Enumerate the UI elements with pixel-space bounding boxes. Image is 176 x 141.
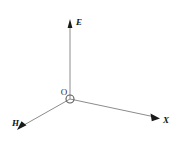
origin-label: O [61, 87, 68, 97]
axis-e: E [68, 17, 82, 99]
x-axis-arrowhead-icon [151, 114, 161, 122]
axis-label-e: E [75, 17, 82, 27]
axis-label-x: X [162, 115, 170, 125]
x-axis-line [70, 99, 155, 117]
axis-x: X [70, 99, 170, 125]
h-axis-line [24, 99, 70, 125]
coordinate-axes-diagram: E X H O [0, 0, 176, 141]
axis-h: H [11, 99, 70, 130]
axes-canvas: E X H O [0, 0, 176, 141]
e-axis-arrowhead-icon [68, 19, 73, 28]
axis-label-h: H [11, 118, 20, 128]
